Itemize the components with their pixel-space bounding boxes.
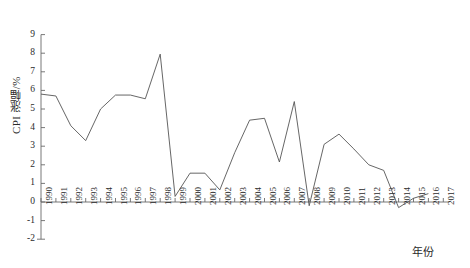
x-axis-tick-label: 2010 [343,187,352,205]
cpi-line-chart: CPI 涨幅/% 9876543210-1-2 1990199119921993… [0,0,470,268]
x-axis-tick-label: 2000 [194,187,203,205]
x-axis-tick-label: 2007 [298,187,307,205]
x-axis-tick-label: 2011 [358,187,367,205]
y-axis-tick-label: 4 [17,123,35,133]
y-axis-tick-label: -2 [17,234,35,244]
x-axis-tick-label: 2005 [269,187,278,205]
y-axis-tick-label: 9 [17,30,35,40]
x-axis-tick-label: 2017 [447,187,456,205]
x-axis-tick-label: 2009 [328,187,337,205]
y-axis-tick-label: 7 [17,67,35,77]
x-axis-tick-label: 1998 [164,187,173,205]
x-axis-tick-label: 1990 [45,187,54,205]
x-axis-tick-label: 2001 [209,187,218,205]
y-axis-tick-label: 3 [17,141,35,151]
x-axis-tick-label: 1995 [120,187,129,205]
x-axis-tick-label: 1999 [179,187,188,205]
x-axis-tick-label: 2008 [313,187,322,205]
x-axis-tick-label: 2002 [224,187,233,205]
x-axis-tick-label: 2013 [388,187,397,205]
x-axis-tick-label: 1994 [105,187,114,205]
y-axis-tick-label: 5 [17,104,35,114]
y-axis-tick-label: 8 [17,48,35,58]
y-axis-tick-label: 1 [17,178,35,188]
x-axis-tick-label: 2003 [239,187,248,205]
x-axis-tick-label: 2004 [254,187,263,205]
x-axis-tick-label: 1992 [75,187,84,205]
x-axis-tick-label: 1996 [134,187,143,205]
y-axis-tick-label: 2 [17,160,35,170]
x-axis-tick-label: 1991 [60,187,69,205]
data-series-line [41,54,428,207]
y-axis-tick-label: 0 [17,197,35,207]
x-axis-tick-label: 2015 [418,187,427,205]
x-axis-tick-label: 2012 [373,187,382,205]
y-axis-tick-label: -1 [17,216,35,226]
y-axis-tick-label: 6 [17,85,35,95]
plot-area [0,0,470,268]
x-axis-tick-label: 2014 [403,187,412,205]
x-axis-tick-label: 2016 [432,187,441,205]
x-axis-tick-label: 1997 [149,187,158,205]
x-axis-tick-label: 1993 [90,187,99,205]
x-axis-title: 年份 [412,243,434,259]
x-axis-tick-label: 2006 [283,187,292,205]
